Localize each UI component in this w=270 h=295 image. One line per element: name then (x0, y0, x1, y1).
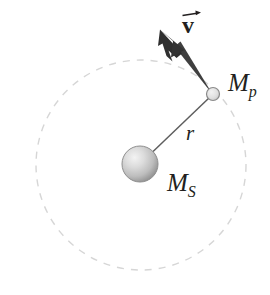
planet-mass-subscript: p (249, 83, 257, 100)
star-sphere (122, 146, 158, 182)
diagram-canvas (0, 0, 270, 295)
vector-accent-group: v (182, 10, 194, 37)
star-mass-subscript: S (188, 183, 196, 200)
star-mass-symbol: M (167, 169, 188, 196)
planet-mass-label: Mp (228, 70, 257, 95)
vector-arrow-icon (182, 10, 201, 19)
planet-mass-symbol: M (228, 69, 249, 96)
orbit-diagram: v Mp MS r (0, 0, 270, 295)
velocity-label: v (182, 10, 194, 37)
planet-sphere (207, 88, 220, 101)
star-mass-label: MS (167, 170, 196, 195)
velocity-arrow (158, 30, 212, 93)
radius-label: r (186, 123, 194, 144)
